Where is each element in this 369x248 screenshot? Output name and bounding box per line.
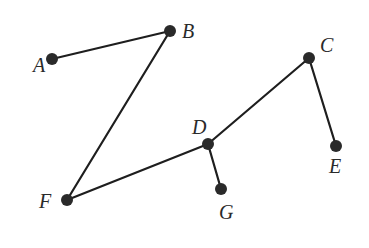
graph-canvas: A B C D E F G xyxy=(0,0,369,248)
label-e: E xyxy=(328,155,341,177)
edge-d-g xyxy=(208,144,221,189)
edge-c-e xyxy=(309,58,336,146)
label-f: F xyxy=(38,190,52,212)
edge-f-d xyxy=(67,144,208,200)
edge-a-b xyxy=(52,31,170,59)
node-c xyxy=(303,52,315,64)
label-a: A xyxy=(31,54,46,76)
label-d: D xyxy=(191,116,207,138)
label-g: G xyxy=(219,201,234,223)
labels-layer: A B C D E F G xyxy=(31,20,341,223)
node-f xyxy=(61,194,73,206)
node-b xyxy=(164,25,176,37)
edge-d-c xyxy=(208,58,309,144)
node-e xyxy=(330,140,342,152)
node-a xyxy=(46,53,58,65)
node-g xyxy=(215,183,227,195)
edge-b-f xyxy=(67,31,170,200)
label-b: B xyxy=(182,20,194,42)
node-d xyxy=(202,138,214,150)
graph-diagram: A B C D E F G xyxy=(0,0,369,248)
label-c: C xyxy=(320,34,334,56)
